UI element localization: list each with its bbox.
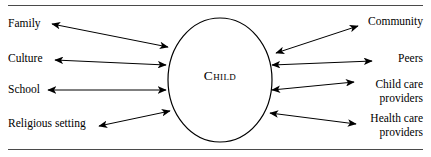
node-label-religious-setting: Religious setting — [8, 117, 86, 130]
node-label-health-care-providers: Health care providers — [370, 112, 423, 139]
connector-community — [276, 26, 358, 53]
node-label-family: Family — [8, 17, 41, 30]
connector-family — [52, 24, 168, 47]
connector-child-care-providers — [272, 82, 354, 90]
node-label-child-care-providers: Child care providers — [375, 78, 423, 105]
connector-religious-setting — [99, 111, 170, 126]
connector-culture — [55, 60, 166, 65]
node-label-community: Community — [368, 15, 423, 28]
child-center-label: Child — [168, 68, 272, 84]
node-label-peers: Peers — [398, 52, 423, 65]
node-label-school: School — [8, 83, 40, 96]
node-label-health-care-providers-line1: Health care — [370, 112, 423, 126]
node-label-culture: Culture — [8, 52, 43, 65]
ecological-influences-diagram: Child Family Culture School Religious se… — [0, 0, 431, 157]
node-label-child-care-providers-line1: Child care — [375, 78, 423, 92]
node-label-health-care-providers-line2: providers — [370, 126, 423, 140]
connector-health-care-providers — [270, 113, 356, 124]
node-label-child-care-providers-line2: providers — [375, 92, 423, 106]
connector-peers — [272, 61, 372, 65]
